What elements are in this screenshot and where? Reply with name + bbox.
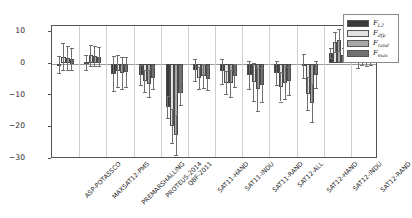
legend-item: Fmax (347, 49, 395, 58)
y-tick-label: 10 (0, 26, 25, 35)
error-bar-cap (333, 32, 337, 33)
error-bar-cap (310, 84, 314, 85)
error-bar (180, 80, 181, 105)
group-separator (134, 26, 135, 157)
y-tick-label: 0 (0, 58, 25, 67)
error-bar (144, 70, 145, 93)
legend-label-1: Fdfp (373, 29, 385, 38)
error-bar-cap (66, 70, 70, 71)
error-bar-cap (365, 66, 369, 67)
error-bar (307, 77, 308, 110)
y-tick-label: −20 (0, 121, 25, 130)
plot-area (51, 25, 377, 158)
error-bar-cap (356, 68, 360, 69)
zero-line (52, 64, 376, 65)
legend-swatch-3 (347, 50, 369, 57)
error-bar (203, 64, 204, 88)
error-bar-cap (283, 99, 287, 100)
error-bar-cap (193, 59, 197, 60)
legend-label-0: FL2 (373, 19, 384, 28)
group-separator (161, 26, 162, 157)
error-bar (230, 70, 231, 98)
error-bar-cap (170, 143, 174, 144)
error-bar-cap (151, 89, 155, 90)
legend: FL2 Fdfp Frand Fmax (343, 14, 399, 63)
group-separator (242, 26, 243, 157)
legend-swatch-2 (347, 40, 369, 47)
error-bar-cap (224, 94, 228, 95)
error-bar-cap (287, 67, 291, 68)
error-bar (176, 115, 177, 156)
group-separator (269, 26, 270, 157)
error-bar-cap (256, 111, 260, 112)
error-bar (276, 61, 277, 84)
error-bar-cap (139, 85, 143, 86)
error-bar (312, 84, 313, 122)
group-separator (188, 26, 189, 157)
error-bar (99, 47, 100, 66)
error-bar-cap (247, 61, 251, 62)
error-bar-cap (314, 88, 318, 89)
y-tick-mark (48, 158, 51, 159)
error-bar (316, 61, 317, 88)
error-bar (86, 55, 87, 70)
error-bar-cap (112, 91, 116, 92)
error-bar (117, 55, 118, 87)
error-bar-cap (57, 73, 61, 74)
error-bar-cap (120, 89, 124, 90)
error-bar-cap (229, 97, 233, 98)
error-bar (94, 46, 95, 66)
error-bar (71, 48, 72, 70)
legend-item: Fdfp (347, 29, 395, 38)
error-bar (253, 63, 254, 101)
group-separator (297, 26, 298, 157)
x-tick-label: SAT12-RAND (379, 160, 412, 193)
error-bar-cap (61, 43, 65, 44)
plot-inner (52, 26, 376, 157)
group-separator (215, 26, 216, 157)
error-bar (140, 65, 141, 85)
error-bar (63, 43, 64, 70)
legend-item: FL2 (347, 19, 395, 28)
error-bar-cap (147, 97, 151, 98)
error-bar (289, 67, 290, 95)
error-bar-cap (260, 102, 264, 103)
error-bar (195, 59, 196, 81)
error-bar (59, 56, 60, 72)
legend-label-3: Fmax (373, 49, 388, 58)
error-bar (153, 67, 154, 90)
error-bar-cap (70, 70, 74, 71)
error-bar-cap (70, 48, 74, 49)
error-bar-cap (314, 61, 318, 62)
error-bar-cap (174, 115, 178, 116)
error-bar-cap (279, 102, 283, 103)
error-bar-cap (302, 54, 306, 55)
group-separator (106, 26, 107, 157)
error-bar-cap (193, 81, 197, 82)
error-bar-cap (206, 67, 210, 68)
x-tick-label: SAT11-RAND (270, 160, 303, 193)
error-bar-cap (337, 29, 341, 30)
group-separator (324, 26, 325, 157)
legend-item: Frand (347, 39, 395, 48)
error-bar-cap (179, 105, 183, 106)
error-bar (262, 68, 263, 102)
error-bar (199, 67, 200, 89)
error-bar-cap (369, 65, 373, 66)
legend-swatch-0 (347, 20, 369, 27)
error-bar (335, 32, 336, 52)
error-bar-cap (260, 68, 264, 69)
error-bar-cap (89, 45, 93, 46)
error-bar-cap (206, 90, 210, 91)
error-bar-cap (233, 87, 237, 88)
error-bar-cap (306, 110, 310, 111)
error-bar-cap (84, 70, 88, 71)
error-bar-cap (247, 89, 251, 90)
legend-swatch-1 (347, 30, 369, 37)
error-bar-cap (220, 84, 224, 85)
error-bar (234, 64, 235, 87)
error-bar-cap (233, 64, 237, 65)
error-bar (226, 71, 227, 94)
error-bar-cap (116, 87, 120, 88)
error-bar-cap (197, 89, 201, 90)
